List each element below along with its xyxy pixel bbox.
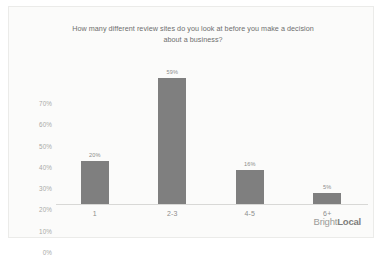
chart-title-line-2: about a business? <box>43 34 343 45</box>
bar[interactable] <box>158 78 186 204</box>
x-axis-category-label: 4-5 <box>211 210 289 217</box>
bar[interactable] <box>313 193 341 204</box>
y-axis: 70%60%50%40%30%20%10%0% <box>9 55 52 204</box>
bar-group: 59% <box>134 55 212 204</box>
y-axis-tick-label: 20% <box>12 206 52 213</box>
bar-group: 5% <box>289 55 367 204</box>
chart-card: How many different review sites do you l… <box>8 6 374 238</box>
x-axis-category-label: 2-3 <box>134 210 212 217</box>
brightlocal-logo: BrightLocal <box>314 216 361 227</box>
y-axis-tick-label: 60% <box>12 121 52 128</box>
brand-light-text: Bright <box>314 216 338 227</box>
y-axis-tick-label: 50% <box>12 142 52 149</box>
x-axis-line <box>56 204 368 205</box>
brand-bold-text: Local <box>337 216 361 227</box>
bar[interactable] <box>236 170 264 204</box>
bar[interactable] <box>81 161 109 204</box>
bar-value-label: 5% <box>323 184 331 190</box>
bar-group: 16% <box>211 55 289 204</box>
y-axis-tick-label: 40% <box>12 163 52 170</box>
bar-value-label: 20% <box>89 152 101 158</box>
y-axis-tick-label: 30% <box>12 185 52 192</box>
bar-group: 20% <box>56 55 134 204</box>
chart-title-line-1: How many different review sites do you l… <box>43 23 343 34</box>
chart-title: How many different review sites do you l… <box>43 23 343 45</box>
y-axis-tick-label: 0% <box>12 249 52 256</box>
y-axis-tick-label: 70% <box>12 100 52 107</box>
y-axis-tick-label: 10% <box>12 227 52 234</box>
bar-value-label: 59% <box>167 69 179 75</box>
bar-value-label: 16% <box>244 161 256 167</box>
x-axis-category-label: 1 <box>56 210 134 217</box>
plot-area: 20%59%16%5% <box>56 55 366 204</box>
